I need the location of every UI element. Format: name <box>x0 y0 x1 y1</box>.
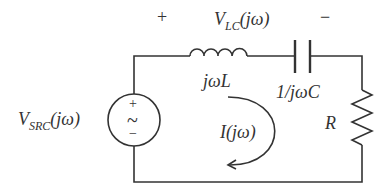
current-label: I(jω) <box>220 123 256 141</box>
resistor-icon <box>352 90 372 145</box>
capacitor-label: 1/jωC <box>276 83 320 101</box>
source-minus-sign: − <box>129 127 137 141</box>
wire-top-left <box>134 56 190 94</box>
vlc-minus-sign: − <box>320 8 330 26</box>
vlc-plus-sign: + <box>157 8 167 26</box>
vlc-label: VLC(jω) <box>214 10 269 32</box>
resistor-label: R <box>325 114 336 132</box>
circuit-diagram <box>0 0 391 194</box>
inductor-label: jωL <box>203 72 231 90</box>
inductor-icon <box>190 49 247 56</box>
wire-bottom <box>134 145 362 182</box>
vsrc-label: VSRC(jω) <box>18 110 80 132</box>
